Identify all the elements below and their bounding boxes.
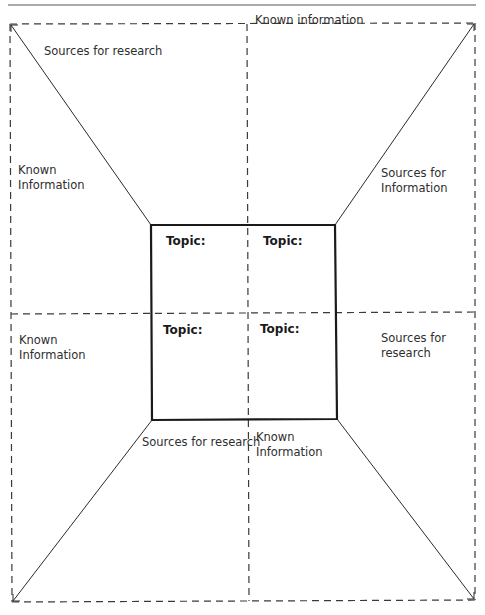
label-line: Information — [18, 178, 85, 193]
label-line: Information — [381, 181, 448, 196]
horizontal-divider — [11, 312, 475, 314]
label-bottom-right-known: Known Information — [256, 430, 323, 460]
label-right-upper-sources: Sources for Information — [381, 166, 448, 196]
quadrant-dividers — [11, 24, 475, 601]
topic-bottom-left: Topic: — [163, 323, 202, 337]
label-line: Sources for — [381, 331, 446, 346]
topic-bottom-right: Topic: — [260, 322, 299, 336]
label-right-lower-sources: Sources for research — [381, 331, 446, 361]
topic-top-right: Topic: — [263, 234, 302, 248]
label-line: Information — [19, 348, 86, 363]
label-line: Information — [256, 445, 323, 460]
label-top-right-known: Known information — [255, 13, 364, 28]
topic-top-left: Topic: — [166, 234, 205, 248]
label-line: research — [381, 346, 446, 361]
label-bottom-left-sources: Sources for research — [142, 435, 260, 450]
label-line: Known — [18, 163, 85, 178]
label-top-left-sources: Sources for research — [44, 44, 162, 59]
diagonal-bottom-right — [337, 419, 474, 599]
graphic-organizer-diagram — [0, 0, 485, 615]
label-left-lower-known: Known Information — [19, 333, 86, 363]
diagonal-bottom-left — [13, 420, 152, 601]
label-left-upper-known: Known Information — [18, 163, 85, 193]
label-line: Sources for — [381, 166, 448, 181]
vertical-divider — [247, 24, 249, 601]
label-line: Known — [256, 430, 323, 445]
label-line: Known — [19, 333, 86, 348]
